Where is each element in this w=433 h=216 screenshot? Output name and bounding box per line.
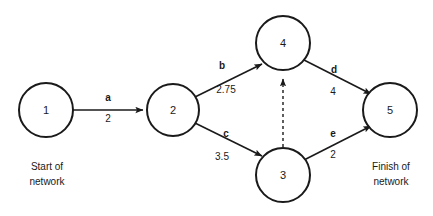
edge-e-line: [304, 126, 371, 160]
edge-c-name: c: [223, 128, 229, 139]
edge-e: e 2: [304, 126, 371, 160]
edge-a: a 2: [73, 92, 143, 124]
edge-a-name: a: [105, 92, 111, 103]
node-5-label: 5: [387, 104, 393, 116]
node-5[interactable]: 5: [363, 83, 417, 137]
node-4[interactable]: 4: [256, 16, 310, 70]
caption-finish-of-network: Finish of network: [372, 161, 410, 187]
edge-b-name: b: [219, 60, 225, 71]
node-2-label: 2: [170, 104, 176, 116]
caption-finish-line1: Finish of: [372, 161, 410, 172]
edge-b: b 2.75: [195, 60, 262, 97]
caption-start-line1: Start of: [31, 161, 63, 172]
edge-d-name: d: [331, 64, 337, 75]
edge-d-weight: 4: [330, 86, 336, 97]
edge-c: c 3.5: [195, 123, 262, 162]
edge-c-weight: 3.5: [215, 151, 229, 162]
caption-start-of-network: Start of network: [29, 161, 65, 187]
edge-d-line: [304, 60, 371, 94]
edge-d: d 4: [304, 60, 371, 97]
node-3[interactable]: 3: [256, 148, 310, 202]
node-1-label: 1: [43, 104, 49, 116]
network-diagram-canvas: a 2 b 2.75 c 3.5 d 4 e 2: [0, 0, 433, 216]
caption-start-line2: network: [29, 176, 65, 187]
edge-b-weight: 2.75: [216, 84, 236, 95]
node-3-label: 3: [280, 169, 286, 181]
node-4-label: 4: [280, 37, 286, 49]
edge-e-name: e: [330, 128, 336, 139]
node-1[interactable]: 1: [19, 83, 73, 137]
caption-finish-line2: network: [373, 176, 409, 187]
network-diagram: a 2 b 2.75 c 3.5 d 4 e 2: [0, 0, 433, 216]
edge-a-weight: 2: [105, 113, 111, 124]
edge-e-weight: 2: [330, 149, 336, 160]
node-2[interactable]: 2: [147, 84, 199, 136]
